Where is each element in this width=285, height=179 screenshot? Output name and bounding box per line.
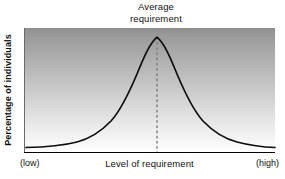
annotation-line-2: requirement bbox=[104, 13, 208, 25]
distribution-curve-svg bbox=[25, 28, 276, 152]
y-axis-label-container: Percentage of individuals bbox=[0, 28, 16, 152]
average-requirement-annotation: Average requirement bbox=[104, 1, 208, 24]
y-axis-label: Percentage of individuals bbox=[3, 34, 13, 146]
plot-area bbox=[24, 28, 275, 152]
x-axis-line bbox=[24, 152, 275, 153]
annotation-line-1: Average bbox=[104, 1, 208, 13]
bell-curve-figure: Average requirement Percentage of indivi… bbox=[0, 0, 285, 179]
plot-inner bbox=[25, 28, 275, 152]
x-axis-label: Level of requirement bbox=[24, 158, 275, 169]
normal-distribution-curve bbox=[26, 37, 275, 147]
x-tick-label-high: (high) bbox=[256, 158, 279, 168]
